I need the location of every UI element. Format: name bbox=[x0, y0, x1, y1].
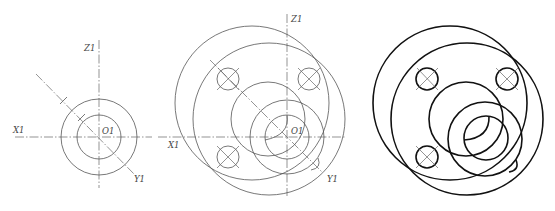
bolt-hole-bottom-left bbox=[416, 146, 438, 168]
label-o1: O1 bbox=[102, 126, 114, 136]
label-z1: Z1 bbox=[290, 14, 302, 24]
flange-back-circle bbox=[175, 26, 329, 180]
bolt-hole-top-left bbox=[416, 68, 438, 90]
bore-circle bbox=[464, 116, 508, 160]
bore-inner-arc bbox=[464, 116, 489, 140]
bolt-hole-top-right bbox=[298, 68, 320, 90]
label-y1: Y1 bbox=[327, 174, 338, 184]
hub-back-circle bbox=[231, 82, 305, 156]
label-x1: X1 bbox=[12, 125, 24, 135]
drawing-canvas: Z1 X1 Y1 O1 Z1 X1 Y1 bbox=[0, 0, 555, 211]
label-o1: O1 bbox=[291, 126, 303, 136]
label-x1: X1 bbox=[167, 140, 179, 150]
y-axis-line bbox=[36, 74, 135, 175]
hub-front-circle bbox=[448, 102, 522, 176]
label-z1: Z1 bbox=[83, 43, 95, 53]
tick-mark bbox=[60, 97, 67, 104]
flange-back-circle bbox=[373, 26, 527, 180]
hub-back-circle bbox=[429, 82, 503, 156]
bore-inner-arc bbox=[265, 115, 287, 140]
bolt-hole-top-left bbox=[217, 68, 239, 90]
panel-step-1-axes: Z1 X1 Y1 O1 bbox=[12, 40, 152, 188]
label-y1: Y1 bbox=[134, 174, 145, 184]
bolt-hole-bottom-left bbox=[217, 146, 239, 168]
panel-step-2-construction: Z1 X1 Y1 O1 bbox=[158, 14, 345, 196]
bolt-hole-top-right bbox=[496, 68, 518, 90]
panel-step-3-final bbox=[373, 26, 543, 195]
